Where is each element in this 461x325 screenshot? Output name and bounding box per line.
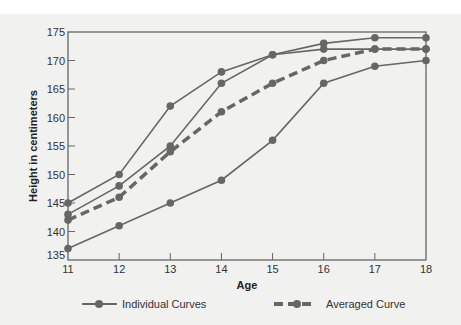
individual-point-marker <box>64 199 72 207</box>
averaged-point-marker <box>218 108 226 116</box>
individual-point-marker <box>371 62 379 70</box>
y-tick-label: 155 <box>47 140 65 152</box>
individual-point-marker <box>422 57 430 65</box>
averaged-point-marker <box>166 148 174 156</box>
averaged-point-marker <box>64 216 72 224</box>
individual-point-marker <box>115 171 123 179</box>
individual-point-marker <box>269 137 277 145</box>
averaged-point-marker <box>422 45 430 53</box>
x-tick-label: 17 <box>369 263 381 275</box>
x-axis-title: Age <box>237 279 258 291</box>
y-tick-label: 170 <box>47 55 65 67</box>
individual-curve-line <box>68 49 426 203</box>
individual-point-marker <box>422 34 430 42</box>
individual-point-marker <box>64 245 72 253</box>
x-tick-label: 14 <box>215 263 227 275</box>
averaged-curve-line <box>68 49 426 220</box>
y-tick-label: 175 <box>47 26 65 38</box>
x-tick-label: 11 <box>62 263 73 275</box>
individual-point-marker <box>218 176 226 184</box>
legend-individual-label: Individual Curves <box>122 298 207 310</box>
y-tick-label: 140 <box>47 226 65 238</box>
x-tick-label: 12 <box>113 263 125 275</box>
y-tick-label: 145 <box>47 197 65 209</box>
y-tick-label: 150 <box>47 169 65 181</box>
individual-point-marker <box>166 102 174 110</box>
y-tick-label: 165 <box>47 83 65 95</box>
individual-point-marker <box>269 51 277 59</box>
series-lines <box>64 34 430 253</box>
averaged-point-marker <box>371 45 379 53</box>
individual-point-marker <box>115 182 123 190</box>
individual-point-marker <box>218 68 226 76</box>
individual-point-marker <box>320 40 328 48</box>
individual-curve-line <box>68 61 426 249</box>
averaged-point-marker <box>269 80 277 88</box>
averaged-point-marker <box>115 194 123 202</box>
individual-point-marker <box>371 34 379 42</box>
x-tick-label: 18 <box>420 263 432 275</box>
averaged-point-marker <box>320 57 328 65</box>
individual-point-marker <box>166 199 174 207</box>
y-tick-label: 135 <box>47 249 65 261</box>
legend: Individual Curves Averaged Curve <box>82 298 405 310</box>
legend-individual-marker-icon <box>95 300 103 308</box>
y-axis-title: Height in centimeters <box>27 90 39 202</box>
individual-point-marker <box>320 80 328 88</box>
individual-point-marker <box>115 222 123 230</box>
individual-point-marker <box>218 80 226 88</box>
legend-averaged-label: Averaged Curve <box>326 298 405 310</box>
y-tick-label: 160 <box>47 112 65 124</box>
legend-averaged-marker-icon <box>293 300 301 308</box>
x-tick-label: 13 <box>164 263 176 275</box>
x-tick-label: 15 <box>266 263 278 275</box>
x-tick-label: 16 <box>318 263 330 275</box>
line-chart: 1351401451501551601651701751112131415161… <box>0 0 461 325</box>
